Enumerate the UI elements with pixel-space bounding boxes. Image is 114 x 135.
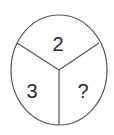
sector-top-label: 2 <box>52 33 63 55</box>
sector-bottom-left-label: 3 <box>26 80 37 102</box>
sector-bottom-right-label: ? <box>77 80 88 102</box>
number-puzzle-diagram: 2 3 ? <box>0 0 114 135</box>
divider-upper-right <box>59 43 99 70</box>
